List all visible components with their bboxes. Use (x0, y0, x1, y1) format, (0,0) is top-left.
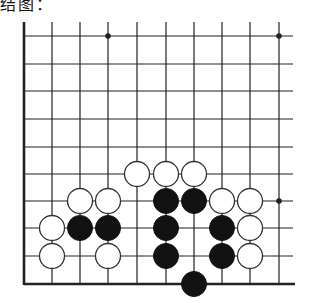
white-stone (210, 189, 235, 214)
black-stone (154, 216, 179, 241)
white-stone (238, 244, 263, 269)
black-stone (96, 216, 121, 241)
white-stone (182, 162, 207, 187)
white-stone (238, 216, 263, 241)
black-stone (182, 189, 207, 214)
black-stone (182, 272, 207, 297)
white-stone (238, 189, 263, 214)
star-point (276, 198, 282, 204)
white-stone (96, 189, 121, 214)
white-stone (125, 162, 150, 187)
star-point (105, 33, 111, 39)
black-stone (154, 189, 179, 214)
white-stone (68, 189, 93, 214)
white-stone (154, 162, 179, 187)
black-stone (210, 244, 235, 269)
white-stone (40, 244, 65, 269)
go-board-diagram (0, 0, 323, 303)
black-stone (68, 216, 93, 241)
black-stone (154, 244, 179, 269)
white-stone (40, 216, 65, 241)
star-point (276, 33, 282, 39)
white-stone (96, 244, 121, 269)
black-stone (210, 216, 235, 241)
